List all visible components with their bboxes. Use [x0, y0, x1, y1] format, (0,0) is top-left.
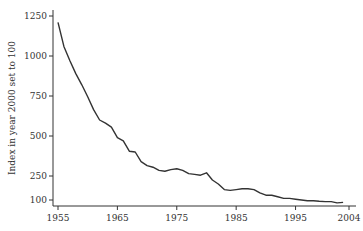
y-axis-title: Index in year 2000 set to 100 — [7, 41, 17, 175]
x-tick-label: 1975 — [165, 213, 188, 223]
y-tick-label: 1000 — [24, 51, 47, 61]
y-axis: 10025050075010001250 — [24, 10, 53, 206]
series-line — [58, 22, 343, 203]
y-tick-label: 500 — [30, 131, 47, 141]
y-tick-label: 750 — [30, 91, 47, 101]
x-tick-label: 1965 — [106, 213, 129, 223]
y-tick-label: 250 — [30, 171, 47, 181]
y-tick-label: 100 — [30, 195, 47, 205]
line-chart: 10025050075010001250 1955196519751985199… — [0, 0, 363, 231]
x-axis: 195519651975198519952004 — [47, 206, 361, 223]
y-tick-label: 1250 — [24, 11, 47, 21]
x-tick-label: 1985 — [225, 213, 248, 223]
x-tick-label: 1995 — [284, 213, 307, 223]
x-tick-label: 2004 — [338, 213, 361, 223]
x-tick-label: 1955 — [47, 213, 70, 223]
